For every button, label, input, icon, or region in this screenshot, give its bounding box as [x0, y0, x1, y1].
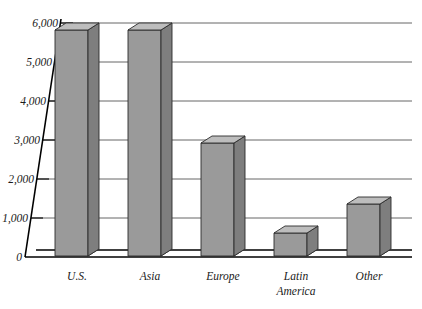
bar-side-europe	[234, 136, 245, 256]
bar-group-europe[interactable]	[201, 136, 245, 256]
bar-front-other	[347, 204, 380, 256]
cat-label-europe: Europe	[205, 270, 239, 283]
cat-label-us: U.S.	[67, 270, 87, 282]
bar-group-other[interactable]	[347, 197, 391, 256]
y-tick-label-6000: 6,000	[32, 17, 58, 30]
y-tick-label-1000: 1,000	[2, 212, 28, 225]
bar-group-latin-america[interactable]	[274, 226, 318, 256]
y-tick-label-4000: 4,000	[20, 95, 46, 108]
bar-chart-figure: 6,000 5,000 4,000 3,000 2,000 1,000 0	[0, 0, 422, 309]
bar-group-asia[interactable]	[128, 23, 172, 256]
cat-label-other: Other	[356, 270, 383, 282]
cat-label-latin-america-line2: America	[276, 285, 316, 297]
y-tick-label-3000: 3,000	[13, 134, 40, 147]
bar-front-us	[55, 30, 88, 256]
y-tick-label-5000: 5,000	[26, 56, 52, 69]
bar-front-europe	[201, 143, 234, 256]
bar-side-asia	[161, 23, 172, 256]
bar-side-other	[380, 197, 391, 256]
bar-side-us	[88, 23, 99, 256]
chart-canvas: 6,000 5,000 4,000 3,000 2,000 1,000 0	[0, 0, 422, 309]
cat-label-latin-america-line1: Latin	[283, 270, 309, 282]
y-tick-label-2000: 2,000	[8, 173, 34, 186]
bar-front-asia	[128, 30, 161, 256]
cat-label-asia: Asia	[139, 270, 161, 282]
x-axis-labels: U.S. Asia Europe Latin America Other	[67, 270, 383, 297]
bar-group-us[interactable]	[55, 23, 99, 256]
y-tick-label-0: 0	[16, 251, 22, 263]
bar-front-latin-america	[274, 233, 307, 256]
